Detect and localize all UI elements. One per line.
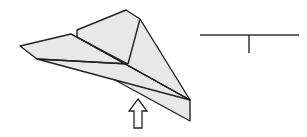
diagram-canvas: [0, 0, 307, 137]
cross-section: [200, 35, 299, 53]
paper-airplane: [20, 10, 190, 121]
push-arrow: [129, 99, 147, 128]
arrow-up-icon: [129, 99, 147, 128]
